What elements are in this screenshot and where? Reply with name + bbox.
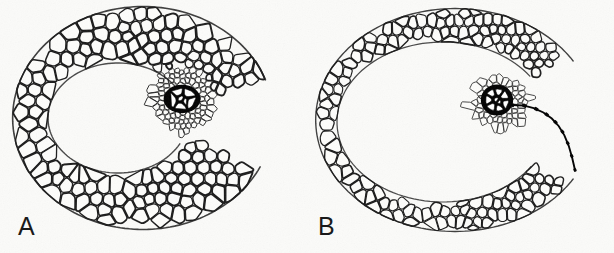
- panel-label-b: B: [318, 214, 335, 239]
- figure-drawing: [0, 0, 614, 253]
- panel-label-a: A: [18, 214, 35, 239]
- figure-container: A B: [0, 0, 614, 253]
- paper-grain-overlay: [0, 0, 614, 253]
